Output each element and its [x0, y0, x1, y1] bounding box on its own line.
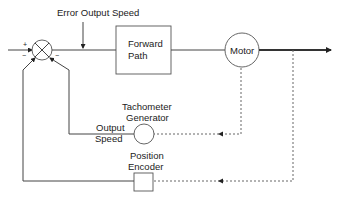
forward-path-label-2: Path: [128, 50, 148, 61]
forward-path-label-1: Forward: [128, 38, 163, 49]
tachometer-label-2: Generator: [126, 112, 169, 123]
control-loop-diagram: + − − Error Output Speed Forward Path Mo…: [0, 0, 341, 199]
summing-junction: [32, 40, 52, 60]
minus-sign-right: −: [55, 52, 59, 59]
tachometer-label-1: Tachometer: [122, 101, 172, 112]
error-output-speed-label: Error Output Speed: [57, 7, 139, 18]
motor-label: Motor: [230, 45, 254, 56]
encoder-label-2: Encoder: [128, 161, 163, 172]
output-speed-label-1: Output: [96, 122, 125, 133]
encoder-arrowhead: [218, 179, 223, 184]
minus-sign-input: −: [22, 52, 26, 59]
position-encoder-block: [134, 173, 153, 191]
plus-sign: +: [23, 41, 27, 48]
output-to-encoder-dotted: [153, 50, 293, 181]
output-speed-label-2: Speed: [95, 133, 122, 144]
encoder-label-1: Position: [130, 150, 164, 161]
tachometer-generator-block: [134, 124, 154, 144]
encoder-feedback-line: [23, 58, 134, 181]
tachometer-arrowhead: [218, 132, 223, 137]
